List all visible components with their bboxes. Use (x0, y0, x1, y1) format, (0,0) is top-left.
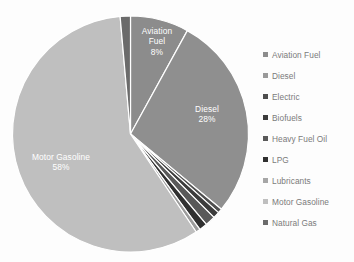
legend-item-label: Biofuels (272, 113, 302, 123)
legend-item-label: Electric (272, 92, 300, 102)
legend-item[interactable]: Heavy Fuel Oil (263, 128, 353, 149)
legend-item[interactable]: LPG (263, 149, 353, 170)
legend-item-label: Motor Gasoline (272, 197, 329, 207)
legend-item-label: Natural Gas (272, 218, 317, 228)
legend-item[interactable]: Motor Gasoline (263, 191, 353, 212)
legend-swatch-icon (263, 220, 268, 225)
legend-item[interactable]: Lubricants (263, 170, 353, 191)
pie-chart-figure: Aviation Fuel 8% Diesel 28% Motor Gasoli… (0, 0, 354, 262)
legend-item[interactable]: Natural Gas (263, 212, 353, 233)
chart-legend: Aviation FuelDieselElectricBiofuelsHeavy… (263, 44, 353, 233)
legend-swatch-icon (263, 178, 268, 183)
legend-swatch-icon (263, 157, 268, 162)
legend-item[interactable]: Electric (263, 86, 353, 107)
legend-item-label: Heavy Fuel Oil (272, 134, 327, 144)
legend-swatch-icon (263, 199, 268, 204)
legend-swatch-icon (263, 115, 268, 120)
legend-swatch-icon (263, 73, 268, 78)
legend-swatch-icon (263, 136, 268, 141)
legend-item-label: Aviation Fuel (272, 50, 320, 60)
pie-slice-group (12, 16, 248, 252)
legend-swatch-icon (263, 52, 268, 57)
legend-item[interactable]: Biofuels (263, 107, 353, 128)
legend-item-label: Lubricants (272, 176, 311, 186)
legend-item[interactable]: Aviation Fuel (263, 44, 353, 65)
legend-item-label: LPG (272, 155, 289, 165)
legend-swatch-icon (263, 94, 268, 99)
legend-item-label: Diesel (272, 71, 295, 81)
legend-item[interactable]: Diesel (263, 65, 353, 86)
